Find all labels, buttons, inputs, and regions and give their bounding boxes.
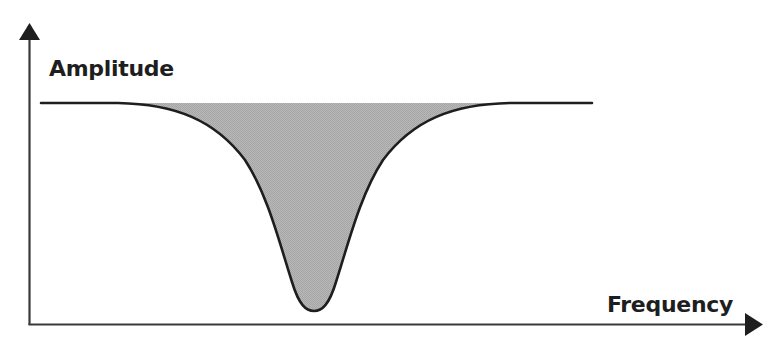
x-axis-arrow-icon (745, 313, 763, 336)
y-axis-label: Amplitude (49, 56, 174, 81)
x-axis-label: Frequency (607, 292, 733, 317)
notch-fill-area (118, 103, 510, 311)
y-axis-arrow-icon (19, 23, 40, 40)
